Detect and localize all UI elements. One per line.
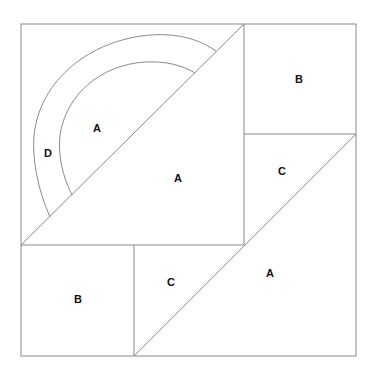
outer-arc: [34, 35, 216, 217]
label-bottom-left-square-b: B: [74, 293, 82, 305]
label-arc-inner-a: A: [93, 122, 101, 134]
label-arc-band-d: D: [44, 147, 52, 159]
diagonal-top-left: [21, 24, 244, 245]
outer-square: [21, 24, 356, 356]
label-bottom-right-triangle-a: A: [266, 267, 274, 279]
label-right-triangle-c: C: [278, 165, 286, 177]
label-top-right-square-b: B: [295, 73, 303, 85]
label-big-triangle-a: A: [174, 172, 182, 184]
label-bottom-triangle-c: C: [167, 276, 175, 288]
quilt-block-diagram: [0, 0, 376, 375]
